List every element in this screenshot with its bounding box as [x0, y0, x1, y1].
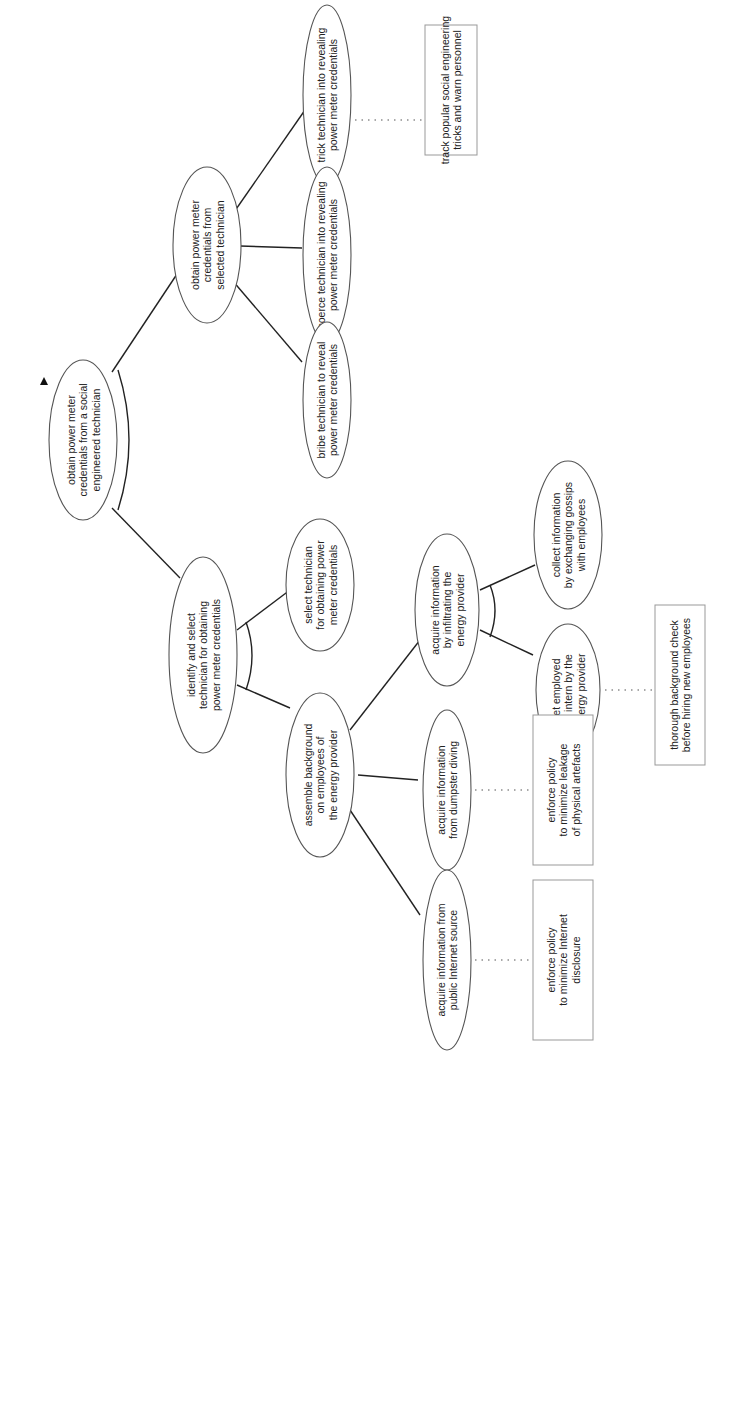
- and-arc-identify: [246, 622, 252, 690]
- attack-node-label-trick: trick technician into revealingpower met…: [315, 27, 340, 162]
- edge-obtain-coerce: [240, 246, 302, 248]
- and-arc-infiltrating: [490, 585, 495, 637]
- edge-assemble-infiltrating: [350, 640, 420, 730]
- attack-node-label-dumpster: acquire informationfrom dumpster diving: [435, 741, 460, 839]
- edge-identify-assemble: [237, 685, 290, 708]
- attack-node-label-bribe: bribe technician to revealpower meter cr…: [315, 342, 340, 459]
- attack-node-label-identify: identify and selecttechnician for obtain…: [185, 599, 222, 711]
- defense-node-label-track: track popular social engineeringtricks a…: [439, 16, 464, 164]
- edge-obtain-bribe: [232, 280, 302, 362]
- root-arrow-icon: [40, 377, 48, 385]
- attack-node-label-root: obtain power metercredentials from a soc…: [65, 383, 102, 496]
- edge-assemble-dumpster: [358, 775, 418, 780]
- and-arc-root: [118, 370, 129, 510]
- defense-links: [355, 120, 655, 960]
- nodes: obtain power metercredentials from a soc…: [49, 5, 705, 1050]
- attack-node-label-assemble: assemble backgroundon employees ofthe en…: [302, 723, 339, 826]
- attack-defense-tree: obtain power metercredentials from a soc…: [0, 0, 732, 1403]
- edge-infiltrating-collect: [480, 565, 535, 590]
- attack-node-label-internet: acquire information frompublic Internet …: [435, 903, 460, 1016]
- attack-node-label-obtain-selected: obtain power metercredentials fromselect…: [189, 200, 226, 290]
- edge-infiltrating-employed: [480, 630, 533, 655]
- attack-node-label-coerce: coerce technician into revealingpower me…: [315, 181, 340, 328]
- edge-assemble-internet: [350, 810, 420, 915]
- attack-node-label-select: select technicianfor obtaining powermete…: [302, 540, 339, 630]
- edge-obtain-trick: [232, 110, 305, 215]
- edge-root-identify: [112, 508, 180, 578]
- defense-node-label-background: thorough background checkbefore hiring n…: [668, 618, 693, 752]
- edge-identify-select: [237, 590, 290, 630]
- attack-node-label-infiltrating: acquire informationby infiltrating theen…: [429, 565, 466, 654]
- edge-root-obtain-selected: [112, 262, 185, 372]
